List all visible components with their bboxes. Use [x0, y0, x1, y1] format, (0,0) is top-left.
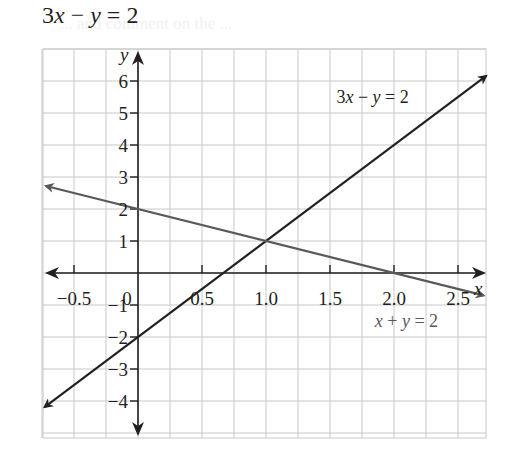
tick-labels: −0.500.51.01.52.02.5−4−3−2−1123456yx [57, 44, 483, 412]
x-tick-label: 1.0 [254, 288, 278, 309]
x-tick-label: 0.5 [190, 288, 214, 309]
x-tick-label: 1.5 [318, 288, 342, 309]
x-tick-label: −0.5 [57, 288, 91, 309]
y-tick-label: 1 [119, 231, 129, 252]
y-tick-label: −1 [108, 295, 128, 316]
y-axis-label: y [118, 44, 129, 65]
chart-area: −0.500.51.01.52.02.5−4−3−2−1123456yx 3x … [0, 0, 508, 452]
y-tick-label: 3 [119, 167, 129, 188]
y-tick-label: 6 [119, 71, 129, 92]
y-tick-label: 2 [119, 199, 129, 220]
y-tick-label: 5 [119, 103, 129, 124]
y-tick-label: −3 [108, 359, 128, 380]
label-3x-minus-y-eq-2: 3x − y = 2 [336, 87, 408, 107]
x-tick-label: 2.0 [382, 288, 406, 309]
y-tick-label: −4 [108, 391, 129, 412]
x-axis-label: x [473, 278, 483, 299]
x-tick-label: 2.5 [446, 288, 470, 309]
label-x-plus-y-eq-2: x + y = 2 [374, 311, 438, 331]
y-tick-label: 4 [119, 135, 129, 156]
y-tick-label: −2 [108, 327, 128, 348]
